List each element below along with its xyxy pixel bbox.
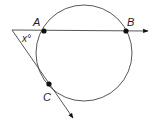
- point-A: [41, 28, 46, 33]
- geometry-diagram: A B C x°: [0, 0, 151, 126]
- point-C: [46, 81, 51, 86]
- angle-label-x: x°: [21, 33, 31, 44]
- label-B: B: [127, 16, 134, 28]
- label-C: C: [43, 91, 51, 103]
- circle: [36, 5, 132, 101]
- label-A: A: [32, 16, 40, 28]
- point-B: [123, 28, 128, 33]
